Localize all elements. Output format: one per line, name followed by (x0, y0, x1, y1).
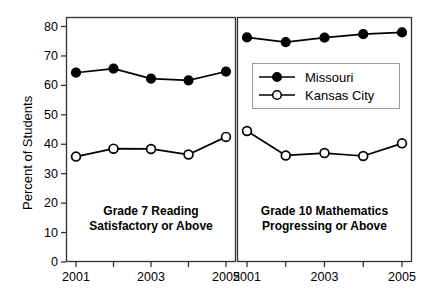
chart-figure: Percent of Students 01020304050607080 20… (0, 0, 429, 296)
y-tick-label: 70 (32, 49, 58, 63)
legend-item-kansas-city: Kansas City (255, 86, 395, 104)
panel-caption-left-line2: Satisfactory or Above (89, 219, 213, 233)
x-tick-label: 2001 (224, 270, 270, 284)
plot-area (0, 0, 429, 296)
legend-label-kansas-city: Kansas City (305, 88, 374, 103)
chart-legend: Missouri Kansas City (252, 63, 400, 109)
y-tick-label: 30 (32, 167, 58, 181)
y-tick-label: 40 (32, 137, 58, 151)
y-tick-label: 60 (32, 78, 58, 92)
x-tick-label: 2003 (128, 270, 174, 284)
y-tick-label: 20 (32, 196, 58, 210)
panel-caption-right-line1: Grade 10 Mathematics (261, 204, 388, 218)
legend-label-missouri: Missouri (305, 70, 353, 85)
y-tick-label: 10 (32, 226, 58, 240)
legend-swatch-kansas-city (255, 86, 299, 104)
x-tick-label: 2005 (379, 270, 425, 284)
legend-swatch-missouri (255, 68, 299, 86)
x-tick-label: 2003 (302, 270, 348, 284)
x-tick-label: 2001 (53, 270, 99, 284)
panel-caption-left-line1: Grade 7 Reading (103, 204, 198, 218)
y-tick-label: 50 (32, 108, 58, 122)
panel-caption-right: Grade 10 Mathematics Progressing or Abov… (261, 204, 388, 235)
y-tick-label: 0 (32, 255, 58, 269)
y-tick-label: 80 (32, 20, 58, 34)
panel-caption-left: Grade 7 Reading Satisfactory or Above (89, 204, 213, 235)
panel-caption-right-line2: Progressing or Above (262, 219, 387, 233)
legend-item-missouri: Missouri (255, 68, 395, 86)
